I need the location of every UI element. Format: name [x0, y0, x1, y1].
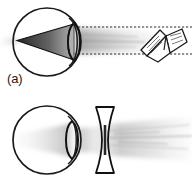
stray-light-left — [0, 36, 18, 46]
panel-a: (a) — [0, 0, 192, 95]
converging-ray-cone — [17, 24, 74, 60]
panel-b-diagram — [0, 95, 192, 191]
blurred-light-beam — [74, 117, 192, 161]
panel-a-diagram — [0, 0, 192, 95]
panel-label-a: (a) — [7, 72, 22, 85]
panel-b: (b) — [0, 95, 192, 191]
optics-figure: (a) — [0, 0, 192, 191]
eye-lens-convex — [68, 23, 80, 61]
blurred-light-beam-inside-eye — [14, 123, 72, 157]
